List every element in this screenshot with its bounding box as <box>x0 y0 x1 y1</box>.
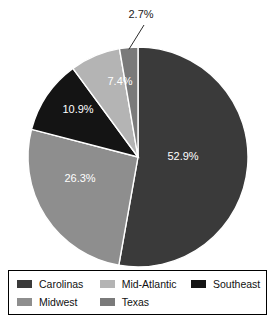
legend-row: Carolinas Mid-Atlantic Southeast <box>9 275 266 293</box>
legend-swatch-texas <box>100 298 115 306</box>
pie-plot-area: 52.9%26.3%10.9%7.4%2.7% <box>0 0 277 268</box>
data-label-southeast: 10.9% <box>62 103 93 115</box>
legend-item-mid-atlantic[interactable]: Mid-Atlantic <box>100 278 191 290</box>
data-label-texas: 2.7% <box>128 8 153 20</box>
legend-swatch-carolinas <box>17 280 32 288</box>
data-label-midwest: 26.3% <box>64 172 95 184</box>
legend-label-mid-atlantic: Mid-Atlantic <box>122 278 177 290</box>
pie-svg: 52.9%26.3%10.9%7.4%2.7% <box>0 0 277 268</box>
legend-label-texas: Texas <box>122 296 149 308</box>
legend-item-midwest[interactable]: Midwest <box>17 296 100 308</box>
legend-item-texas[interactable]: Texas <box>100 296 191 308</box>
legend-swatch-midwest <box>17 298 32 306</box>
data-label-mid-atlantic: 7.4% <box>107 75 132 87</box>
legend-swatch-southeast <box>191 280 206 288</box>
legend-item-southeast[interactable]: Southeast <box>191 278 266 290</box>
legend: Carolinas Mid-Atlantic Southeast Midwest… <box>8 270 267 315</box>
legend-row: Midwest Texas <box>9 293 266 311</box>
pie-chart-figure: 52.9%26.3%10.9%7.4%2.7% Carolinas Mid-At… <box>0 0 277 325</box>
callout-leader-group <box>129 25 144 49</box>
data-label-carolinas: 52.9% <box>167 150 198 162</box>
legend-label-midwest: Midwest <box>39 296 78 308</box>
legend-swatch-mid-atlantic <box>100 280 115 288</box>
leader-line-texas <box>129 25 144 49</box>
legend-item-carolinas[interactable]: Carolinas <box>17 278 100 290</box>
legend-label-southeast: Southeast <box>213 278 260 290</box>
pie-slices-group <box>28 47 248 267</box>
legend-label-carolinas: Carolinas <box>39 278 83 290</box>
